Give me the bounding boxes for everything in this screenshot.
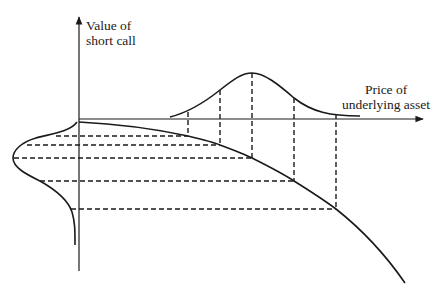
short-call-value-distribution-curve — [13, 122, 77, 245]
x-axis-label-line2: underlying asset — [342, 97, 430, 112]
short-call-value-curve — [79, 122, 405, 283]
y-axis-label: Value of short call — [86, 18, 136, 48]
asset-price-distribution-curve — [170, 73, 360, 117]
y-axis-label-line1: Value of — [86, 18, 136, 33]
x-axis-label-line1: Price of — [342, 82, 430, 97]
x-axis-label: Price of underlying asset — [342, 82, 430, 112]
diagram-canvas — [0, 0, 435, 295]
short-call-diagram: Value of short call Price of underlying … — [0, 0, 435, 295]
y-axis-label-line2: short call — [86, 33, 136, 48]
